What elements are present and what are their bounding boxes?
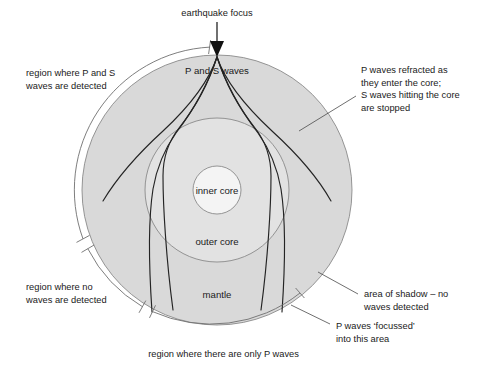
annotation-line: P waves refracted as	[361, 65, 448, 75]
annotation-region-only-p-waves: region where there are only P waves	[148, 349, 312, 359]
annotation-shadow-zone: area of shadow – no waves detected	[363, 289, 466, 312]
annotation-line: waves detected	[363, 302, 429, 312]
leader-line-focussed	[291, 305, 330, 324]
label-mantle: mantle	[203, 289, 232, 300]
annotation-p-refracted-s-stopped: P waves refracted as they enter the core…	[361, 65, 478, 113]
label-inner-core: inner core	[196, 185, 239, 196]
annotation-line: region where no	[26, 282, 93, 292]
annotation-line: into this area	[336, 334, 390, 344]
label-outer-core: outer core	[195, 236, 238, 247]
bracket-tick-no-waves-start	[82, 245, 95, 252]
bracket-tick-ps-end	[77, 235, 90, 242]
annotation-line: waves are detected	[25, 81, 107, 91]
annotation-region-ps-detected: region where P and S waves are detected	[25, 68, 133, 91]
label-p-and-s-waves: P and S waves	[185, 65, 249, 76]
annotation-line: P waves ‘focussed’	[336, 321, 415, 331]
annotation-line: they enter the core;	[361, 78, 441, 88]
seismic-wave-diagram: P and S waves inner core outer core mant…	[0, 0, 496, 375]
leader-line-shadow	[318, 272, 358, 294]
diagram-canvas: P and S waves inner core outer core mant…	[0, 0, 496, 375]
annotation-region-no-waves: region where no waves are detected	[25, 282, 120, 305]
annotation-line: waves are detected	[25, 295, 107, 305]
annotation-p-waves-focussed: P waves ‘focussed’ into this area	[336, 321, 433, 344]
annotation-line: region where there are only P waves	[148, 349, 299, 359]
annotation-line: region where P and S	[26, 68, 115, 78]
annotation-line: S waves hitting the core	[361, 90, 460, 100]
label-earthquake-focus: earthquake focus	[181, 8, 253, 18]
annotation-line: area of shadow – no	[364, 289, 448, 299]
focus-arrow-head	[210, 41, 224, 57]
annotation-line: are stopped	[361, 103, 410, 113]
